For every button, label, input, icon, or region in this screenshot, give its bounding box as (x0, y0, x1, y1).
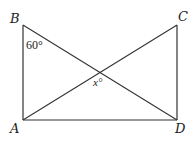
angle-b-label: 60° (26, 38, 43, 52)
label-c: C (178, 9, 188, 24)
label-a: A (9, 121, 19, 136)
label-b: B (9, 11, 20, 26)
angle-x-label: x° (92, 76, 103, 88)
label-d: D (174, 121, 186, 136)
geometry-diagram: B C A D 60° x° (0, 0, 196, 143)
